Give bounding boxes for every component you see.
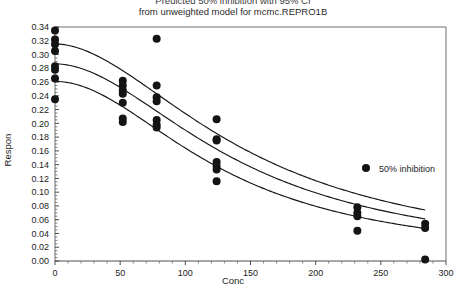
data-point — [153, 82, 161, 90]
scatter-plot: 050100150200250300 0.340.320.300.280.260… — [0, 0, 466, 294]
y-tick-label: 0.16 — [31, 146, 49, 156]
data-point — [153, 123, 161, 131]
y-tick-label: 0.08 — [31, 201, 49, 211]
x-tick-label: 0 — [52, 268, 57, 278]
x-tick-label: 100 — [178, 268, 193, 278]
legend-marker-icon — [362, 164, 370, 172]
y-tick-label: 0.20 — [31, 119, 49, 129]
y-tick-label: 0.12 — [31, 174, 49, 184]
data-point — [51, 95, 59, 103]
legend-label: 50% inhibition — [379, 164, 435, 174]
data-point — [119, 118, 127, 126]
y-tick-label: 0.02 — [31, 242, 49, 252]
data-point — [421, 256, 429, 264]
y-tick-label: 0.34 — [31, 22, 49, 32]
data-point — [213, 177, 221, 185]
chart-title: Predicted 50% inhibition with 95% CI fro… — [0, 0, 466, 17]
y-tick-label: 0.32 — [31, 36, 49, 46]
y-axis-label: Respon — [2, 134, 13, 167]
y-tick-label: 0.24 — [31, 91, 49, 101]
y-tick-label: 0.14 — [31, 160, 49, 170]
x-tick-label: 250 — [373, 268, 388, 278]
data-point — [51, 75, 59, 83]
y-tick-label: 0.28 — [31, 63, 49, 73]
x-tick-label: 150 — [243, 268, 258, 278]
x-axis-label: Conc — [222, 275, 244, 286]
chart-title-line-1: Predicted 50% inhibition with 95% CI — [0, 0, 466, 6]
y-tick-label: 0.22 — [31, 105, 49, 115]
data-point — [119, 90, 127, 98]
data-point — [153, 97, 161, 105]
data-point — [51, 26, 59, 34]
y-tick-label: 0.00 — [31, 256, 49, 266]
data-point — [153, 35, 161, 43]
y-tick-label: 0.18 — [31, 132, 49, 142]
y-tick-label: 0.10 — [31, 187, 49, 197]
y-tick-label: 0.06 — [31, 215, 49, 225]
y-tick-label: 0.26 — [31, 77, 49, 87]
data-point — [213, 115, 221, 123]
y-tick-label: 0.30 — [31, 50, 49, 60]
y-tick-label: 0.04 — [31, 229, 49, 239]
data-point — [51, 47, 59, 55]
data-point — [353, 212, 361, 220]
data-point — [213, 165, 221, 173]
x-tick-label: 200 — [308, 268, 323, 278]
plot-background — [0, 0, 466, 294]
data-point — [421, 224, 429, 232]
chart-title-line-2: from unweighted model for mcmc.REPRO1B — [0, 6, 466, 17]
data-point — [353, 227, 361, 235]
data-point — [119, 99, 127, 107]
data-point — [51, 66, 59, 74]
x-tick-label: 300 — [438, 268, 453, 278]
data-point — [51, 40, 59, 48]
x-tick-label: 50 — [115, 268, 125, 278]
figure-root: Predicted 50% inhibition with 95% CI fro… — [0, 0, 466, 294]
data-point — [213, 137, 221, 145]
